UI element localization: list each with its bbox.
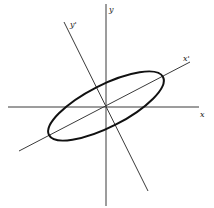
- y-axis-label: y: [108, 5, 114, 14]
- ellipse-axes-diagram: x y x' y': [0, 0, 214, 208]
- x-prime-axis-label: x': [183, 54, 190, 63]
- x-axis-label: x: [200, 110, 205, 119]
- y-prime-axis-label: y': [69, 20, 77, 29]
